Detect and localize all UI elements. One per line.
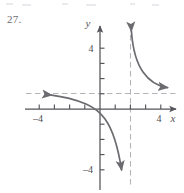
y-axis-label: y [85,17,91,29]
y-axis [100,26,105,190]
curve-branch-upper-right [131,31,167,88]
asymptote-group [26,26,178,186]
graph-figure: y x –4 4 4 –4 [0,0,184,193]
x-tick-label-positive-4: 4 [157,113,162,124]
y-tick-label-negative-4: –4 [82,164,93,175]
y-tick-label-positive-4: 4 [89,43,94,54]
curve-branch-lower-left [52,95,122,170]
figure-container: 27. [0,0,184,193]
x-axis-label: x [170,112,176,124]
x-tick-label-negative-4: –4 [32,113,43,124]
curve-group [52,31,168,170]
